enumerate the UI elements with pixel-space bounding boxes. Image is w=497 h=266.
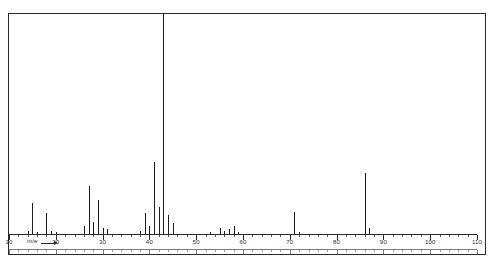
- secondary-tick-minor: [271, 250, 272, 252]
- secondary-tick-minor: [440, 250, 441, 252]
- spectrum-peak: [294, 212, 295, 235]
- axis-tick-minor: [327, 235, 328, 237]
- secondary-tick-minor: [28, 250, 29, 252]
- axis-title-label: m/e: [27, 238, 38, 244]
- secondary-tick-minor: [206, 250, 207, 252]
- spectrum-peak: [145, 213, 146, 235]
- axis-tick-minor: [206, 235, 207, 237]
- axis-tick-label: 50: [193, 239, 200, 245]
- spectrum-peak: [98, 200, 99, 235]
- secondary-tick-major: [383, 250, 384, 254]
- axis-tick-minor: [168, 235, 169, 237]
- axis-tick-minor: [75, 235, 76, 237]
- secondary-tick-minor: [121, 250, 122, 252]
- axis-tick-label-group: 102030405060708090100110: [9, 239, 477, 249]
- secondary-tick-group: [9, 250, 477, 255]
- secondary-tick-minor: [402, 250, 403, 252]
- axis-tick-minor: [421, 235, 422, 237]
- mass-spectrum-figure: 102030405060708090100110 m/e: [0, 0, 497, 266]
- axis-tick-minor: [140, 235, 141, 237]
- secondary-tick-minor: [168, 250, 169, 252]
- secondary-tick-minor: [421, 250, 422, 252]
- axis-tick-minor: [440, 235, 441, 237]
- secondary-tick-major: [337, 250, 338, 254]
- axis-tick-minor: [468, 235, 469, 237]
- spectrum-peak: [46, 213, 47, 235]
- secondary-tick-minor: [224, 250, 225, 252]
- secondary-tick-minor: [280, 250, 281, 252]
- secondary-tick-major: [9, 250, 10, 254]
- secondary-tick-minor: [65, 250, 66, 252]
- secondary-tick-minor: [93, 250, 94, 252]
- secondary-tick-minor: [374, 250, 375, 252]
- axis-tick-label: 100: [425, 239, 436, 245]
- axis-tick-minor: [65, 235, 66, 237]
- axis-tick-label: 10: [5, 239, 12, 245]
- spectrum-peak: [93, 222, 94, 235]
- secondary-tick-major: [196, 250, 197, 254]
- secondary-tick-minor: [365, 250, 366, 252]
- spectrum-peak: [32, 203, 33, 235]
- axis-tick-minor: [18, 235, 19, 237]
- secondary-tick-major: [477, 250, 478, 254]
- axis-tick-minor: [215, 235, 216, 237]
- secondary-tick-major: [430, 250, 431, 254]
- secondary-tick-minor: [112, 250, 113, 252]
- axis-tick-minor: [374, 235, 375, 237]
- right-arrow-icon: [41, 242, 59, 246]
- axis-tick-minor: [402, 235, 403, 237]
- secondary-tick-minor: [177, 250, 178, 252]
- axis-tick-minor: [28, 235, 29, 237]
- axis-tick-label: 30: [99, 239, 106, 245]
- secondary-tick-major: [103, 250, 104, 254]
- secondary-tick-minor: [84, 250, 85, 252]
- axis-tick-label: 60: [239, 239, 246, 245]
- secondary-tick-minor: [187, 250, 188, 252]
- axis-tick-label: 110: [472, 239, 482, 245]
- axis-tick-minor: [234, 235, 235, 237]
- axis-tick-minor: [280, 235, 281, 237]
- spectrum-peak: [89, 186, 90, 235]
- axis-tick-minor: [93, 235, 94, 237]
- axis-tick-minor: [84, 235, 85, 237]
- secondary-tick-major: [56, 250, 57, 254]
- axis-tick-minor: [449, 235, 450, 237]
- secondary-tick-major: [243, 250, 244, 254]
- axis-tick-minor: [112, 235, 113, 237]
- secondary-tick-minor: [75, 250, 76, 252]
- spectrum-peak: [159, 207, 160, 235]
- axis-tick-minor: [309, 235, 310, 237]
- axis-tick-label: 40: [146, 239, 153, 245]
- secondary-tick-minor: [252, 250, 253, 252]
- axis-tick-minor: [365, 235, 366, 237]
- axis-tick-minor: [121, 235, 122, 237]
- secondary-tick-minor: [159, 250, 160, 252]
- secondary-tick-minor: [411, 250, 412, 252]
- spectrum-peak: [163, 14, 164, 235]
- secondary-tick-minor: [449, 250, 450, 252]
- secondary-tick-minor: [458, 250, 459, 252]
- secondary-tick-minor: [327, 250, 328, 252]
- spectrum-peak: [154, 162, 155, 235]
- secondary-tick-minor: [309, 250, 310, 252]
- axis-tick-label: 90: [380, 239, 387, 245]
- axis-tick-minor: [411, 235, 412, 237]
- axis-tick-label: 70: [286, 239, 293, 245]
- secondary-tick-minor: [234, 250, 235, 252]
- secondary-tick-minor: [140, 250, 141, 252]
- secondary-tick-minor: [46, 250, 47, 252]
- secondary-tick-minor: [215, 250, 216, 252]
- axis-tick-minor: [131, 235, 132, 237]
- secondary-tick-minor: [318, 250, 319, 252]
- axis-tick-minor: [271, 235, 272, 237]
- secondary-tick-minor: [393, 250, 394, 252]
- secondary-tick-minor: [346, 250, 347, 252]
- axis-tick-minor: [299, 235, 300, 237]
- axis-tick-minor: [177, 235, 178, 237]
- secondary-tick-minor: [355, 250, 356, 252]
- secondary-tick-minor: [18, 250, 19, 252]
- axis-tick-minor: [346, 235, 347, 237]
- axis-tick-minor: [318, 235, 319, 237]
- secondary-tick-minor: [299, 250, 300, 252]
- axis-tick-minor: [393, 235, 394, 237]
